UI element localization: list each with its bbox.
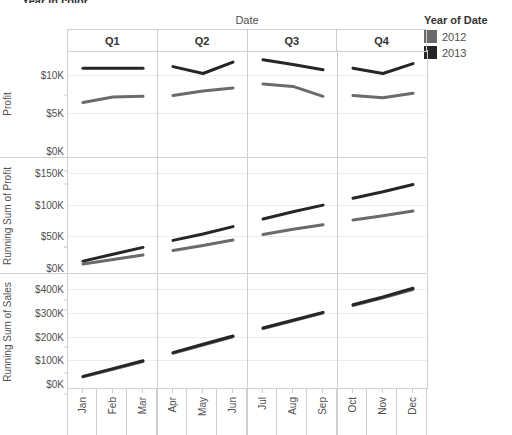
series-line-2013[interactable] (173, 62, 233, 73)
series-line-2012[interactable] (353, 93, 413, 98)
month-label: May (196, 397, 207, 416)
month-label: Jan (76, 397, 87, 413)
x-tick-mark (322, 389, 323, 393)
month-cell[interactable]: Jul (247, 389, 277, 435)
series-line-2013[interactable] (263, 312, 323, 328)
row-axis-title-profit: Profit (0, 50, 14, 157)
x-tick-mark (232, 389, 233, 393)
series-line-2013[interactable] (353, 288, 413, 305)
series-layer (68, 50, 428, 157)
y-tick-label: $150K (35, 168, 64, 179)
x-tick-mark (352, 389, 353, 393)
y-tick-label: $100K (35, 199, 64, 210)
series-line-2012[interactable] (353, 211, 413, 220)
x-tick-mark (292, 389, 293, 393)
row-axis-title-running-sum-sales: Running Sum of Sales (0, 274, 14, 389)
month-label: Nov (376, 397, 387, 415)
legend: Year of Date 2012 2013 (424, 14, 510, 62)
month-cell[interactable]: Sep (307, 389, 337, 435)
quarter-divider (157, 389, 158, 435)
quarter-divider (247, 389, 248, 435)
month-cell[interactable]: Jun (217, 389, 247, 435)
series-line-2013[interactable] (263, 205, 323, 219)
series-line-2012[interactable] (263, 84, 323, 96)
month-label: Jun (226, 397, 237, 413)
quarter-header-q3[interactable]: Q3 (248, 30, 338, 51)
panel-profit: Profit $0K$5K$10K (0, 50, 427, 157)
month-cell[interactable]: Oct (337, 389, 367, 435)
plot-area-running-sum-sales[interactable] (67, 274, 427, 389)
y-tick-label: $5K (46, 108, 64, 119)
month-cell[interactable]: Dec (397, 389, 427, 435)
x-tick-mark (412, 389, 413, 393)
y-axis-ticks-running-sum-profit: $0K$50K$100K$150K (14, 158, 67, 273)
legend-title: Year of Date (424, 14, 510, 26)
series-line-2013[interactable] (83, 361, 143, 377)
x-tick-mark (112, 389, 113, 393)
series-line-2013[interactable] (173, 227, 233, 241)
y-tick-label: $10K (41, 70, 64, 81)
x-tick-mark (142, 389, 143, 393)
row-axis-title-profit-label: Profit (2, 92, 13, 115)
series-line-2013[interactable] (353, 64, 413, 74)
quarter-header-q4[interactable]: Q4 (337, 30, 427, 51)
month-cell[interactable]: May (187, 389, 217, 435)
series-layer (68, 274, 428, 390)
month-label: Mar (136, 397, 147, 414)
row-axis-title-running-sum-profit-label: Running Sum of Profit (2, 167, 13, 265)
x-tick-mark (82, 389, 83, 393)
legend-label-2013: 2013 (442, 47, 466, 59)
legend-item-2012[interactable]: 2012 (424, 30, 510, 43)
x-tick-mark (172, 389, 173, 393)
series-line-2013[interactable] (353, 185, 413, 199)
y-axis-ticks-profit: $0K$5K$10K (14, 50, 67, 157)
quarter-header-q1[interactable]: Q1 (67, 30, 158, 51)
month-label: Apr (166, 397, 177, 413)
y-tick-label: $50K (41, 231, 64, 242)
month-cell[interactable]: Apr (157, 389, 187, 435)
month-label: Jul (256, 397, 267, 410)
month-label: Dec (406, 397, 417, 415)
quarter-divider (337, 389, 338, 435)
quarter-header-band: Q1 Q2 Q3 Q4 (67, 29, 427, 52)
month-cell[interactable]: Nov (367, 389, 397, 435)
month-label: Sep (316, 397, 327, 415)
month-label: Aug (286, 397, 297, 415)
quarter-divider (67, 389, 68, 435)
series-line-2012[interactable] (173, 88, 233, 96)
panel-running-sum-profit: Running Sum of Profit $0K$50K$100K$150K (0, 157, 427, 273)
y-tick-label: $0K (46, 146, 64, 157)
row-axis-title-running-sum-profit: Running Sum of Profit (0, 158, 14, 273)
month-cell[interactable]: Feb (97, 389, 127, 435)
quarter-header-q2[interactable]: Q2 (158, 30, 248, 51)
series-line-2012[interactable] (83, 96, 143, 102)
row-axis-title-running-sum-sales-label: Running Sum of Sales (2, 282, 13, 382)
series-layer (68, 158, 428, 274)
plot-area-running-sum-profit[interactable] (67, 158, 427, 273)
panel-running-sum-sales: Running Sum of Sales $0K$100K$200K$300K$… (0, 273, 427, 389)
y-tick-label: $400K (35, 284, 64, 295)
cropped-window-title: Year in color (22, 0, 88, 3)
y-tick-label: $100K (35, 355, 64, 366)
plot-area-profit[interactable] (67, 50, 427, 157)
month-axis-band: JanFebMarAprMayJunJulAugSepOctNovDec (67, 389, 427, 435)
series-line-2012[interactable] (263, 225, 323, 235)
series-line-2013[interactable] (263, 60, 323, 70)
legend-label-2012: 2012 (442, 31, 466, 43)
legend-item-2013[interactable]: 2013 (424, 46, 510, 59)
y-tick-label: $0K (46, 263, 64, 274)
series-line-2012[interactable] (173, 240, 233, 250)
y-tick-label: $0K (46, 379, 64, 390)
month-cell[interactable]: Aug (277, 389, 307, 435)
y-tick-label: $300K (35, 308, 64, 319)
x-tick-mark (262, 389, 263, 393)
panel-stack: Profit $0K$5K$10K Running Sum of Profit … (0, 50, 427, 389)
column-axis-title: Date (67, 14, 427, 26)
series-line-2013[interactable] (173, 336, 233, 353)
month-cell[interactable]: Mar (127, 389, 157, 435)
y-axis-ticks-running-sum-sales: $0K$100K$200K$300K$400K (14, 274, 67, 389)
x-tick-mark (382, 389, 383, 393)
month-label: Oct (346, 397, 357, 413)
x-tick-mark (202, 389, 203, 393)
month-cell[interactable]: Jan (67, 389, 97, 435)
